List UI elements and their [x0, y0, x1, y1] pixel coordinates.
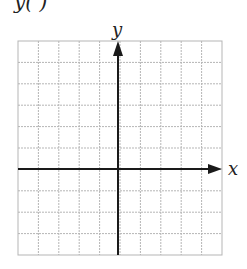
x-axis-label: x	[228, 158, 238, 179]
y-axis-arrow-icon	[113, 41, 123, 56]
y-axis-label: y	[111, 19, 123, 40]
x-axis-arrow-icon	[208, 164, 222, 174]
grid-lines	[18, 41, 222, 255]
coordinate-plane: x y	[0, 0, 247, 269]
